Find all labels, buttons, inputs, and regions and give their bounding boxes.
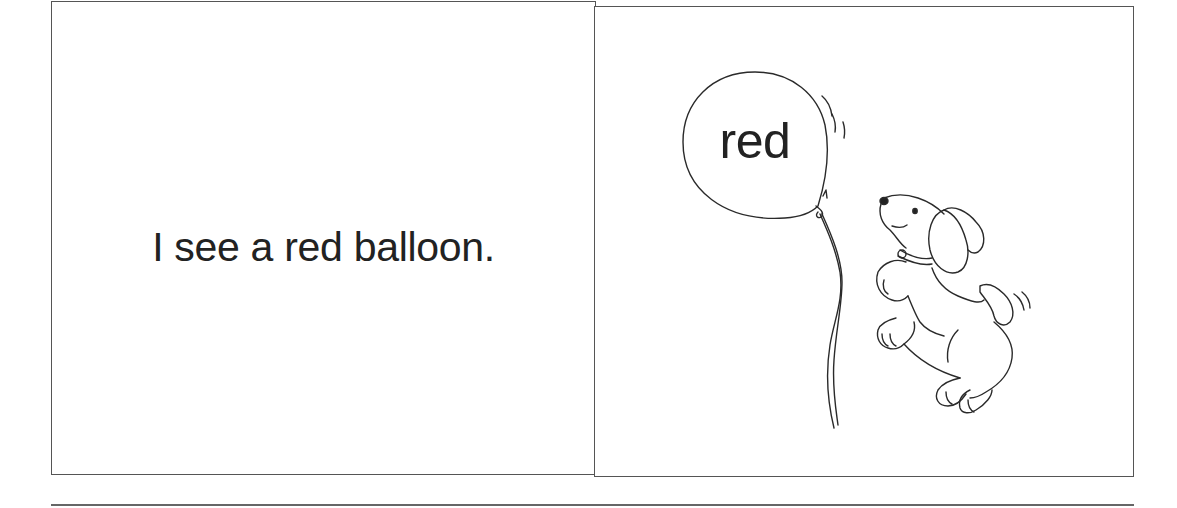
bottom-divider — [51, 504, 1134, 506]
puppy-icon — [877, 195, 1030, 413]
balloon-puppy-illustration-icon — [0, 0, 1177, 508]
balloon-label: red — [680, 112, 830, 170]
